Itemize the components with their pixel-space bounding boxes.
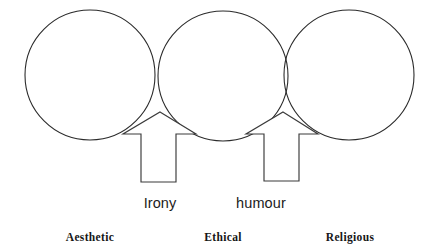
flow-label-humour: humour	[236, 196, 286, 211]
stage-label-religious: Religious	[326, 232, 375, 244]
flow-label-irony: Irony	[144, 196, 177, 211]
diagram-canvas: Irony humour Aesthetic Ethical Religious	[0, 0, 434, 251]
stage-label-aesthetic: Aesthetic	[66, 232, 115, 244]
label-layer: Irony humour Aesthetic Ethical Religious	[0, 0, 434, 251]
stage-label-ethical: Ethical	[204, 232, 242, 244]
